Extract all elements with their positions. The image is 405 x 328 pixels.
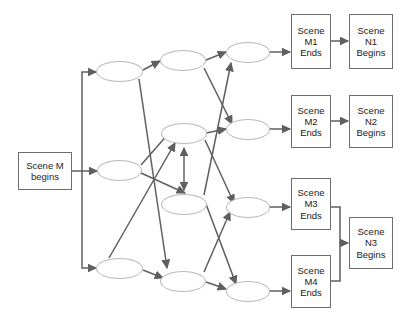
scene-m2-line2: M2 (304, 116, 317, 127)
node-c1-r4[interactable] (96, 258, 143, 279)
node-c3-r1[interactable] (226, 42, 270, 63)
scene-n1-line1: Scene (358, 25, 385, 36)
scene-m-begins-line2: begins (31, 171, 59, 182)
scene-m4-ends-box[interactable]: Scene M4 Ends (291, 255, 331, 308)
edge-c2r2-to-c3r2 (206, 129, 226, 133)
scene-m4-line2: M4 (304, 276, 317, 287)
scene-n2-line3: Begins (356, 127, 385, 138)
scene-n3-begins-box[interactable]: Scene N3 Begins (349, 217, 393, 269)
node-c3-r4[interactable] (226, 281, 270, 302)
scene-n1-line2: N1 (365, 36, 377, 47)
scene-m-begins-box[interactable]: Scene M begins (18, 152, 72, 190)
scene-m2-line3: Ends (300, 127, 322, 138)
scene-m3-ends-box[interactable]: Scene M3 Ends (291, 178, 331, 230)
scene-n2-line2: N2 (365, 116, 377, 127)
scene-m4-line1: Scene (298, 265, 325, 276)
edge-c1r4-to-c2r4 (143, 270, 163, 278)
scene-n2-begins-box[interactable]: Scene N2 Begins (349, 95, 393, 148)
edge-m3-to-n3 (331, 207, 348, 243)
node-c1-r1[interactable] (96, 61, 143, 82)
scene-n3-line1: Scene (358, 226, 385, 237)
node-c2-r3[interactable] (161, 194, 207, 215)
scene-m3-line2: M3 (304, 198, 317, 209)
node-c2-r2[interactable] (161, 123, 207, 144)
scene-n1-begins-box[interactable]: Scene N1 Begins (349, 14, 393, 69)
scene-n3-line3: Begins (356, 249, 385, 260)
edge-c1r1-to-c2r1 (143, 61, 160, 70)
edge-c2r4-to-c3r4 (206, 282, 226, 289)
scene-m-begins-line1: Scene M (26, 160, 64, 171)
scene-m1-line3: Ends (300, 47, 322, 58)
scene-m3-line1: Scene (298, 187, 325, 198)
node-c2-r1[interactable] (160, 50, 206, 71)
edge-m4-to-n3 (331, 243, 340, 281)
scene-m1-line2: M1 (304, 36, 317, 47)
edge-c2r1-to-c3r1 (206, 52, 226, 60)
scene-m2-ends-box[interactable]: Scene M2 Ends (291, 95, 331, 148)
scene-m2-line1: Scene (298, 105, 325, 116)
node-c3-r3[interactable] (226, 197, 270, 218)
node-c3-r2[interactable] (226, 119, 270, 140)
scene-n1-line3: Begins (356, 47, 385, 58)
edge-c2r4-to-c3r3 (204, 212, 230, 272)
scene-m3-line3: Ends (300, 210, 322, 221)
scene-n3-line2: N3 (365, 237, 377, 248)
scene-m4-line3: Ends (300, 287, 322, 298)
scene-m1-ends-box[interactable]: Scene M1 Ends (291, 14, 331, 69)
node-c1-r2[interactable] (97, 160, 142, 181)
scene-m1-line1: Scene (298, 25, 325, 36)
edge-c2r3-to-c3r4 (206, 204, 236, 284)
scene-branching-diagram: Scene M begins Scene M1 Ends Scene M2 En… (0, 0, 405, 328)
edge-start-to-c1r4 (82, 171, 96, 268)
scene-n2-line1: Scene (358, 105, 385, 116)
node-c2-r4[interactable] (160, 271, 206, 292)
edge-start-to-c1r1 (82, 72, 96, 171)
